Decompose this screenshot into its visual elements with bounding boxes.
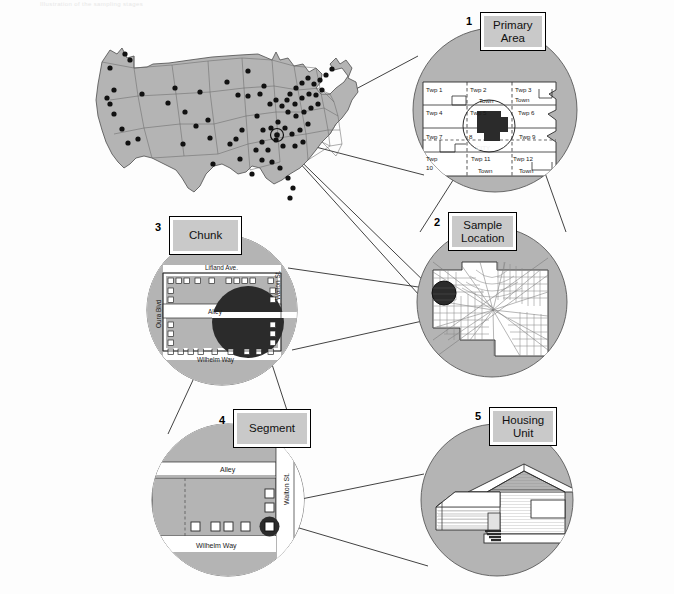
panel-chunk: Lifland Ave. Alley Wilhelm Way Oura Blvd… [147,235,298,385]
selected-housing-unit [260,517,280,537]
street-label-oura: Oura Blvd [155,299,162,328]
svg-text:Twp 3: Twp 3 [515,86,532,93]
street-label-walton-4: Walton St. [283,473,290,505]
svg-text:Twp 12: Twp 12 [513,155,534,162]
svg-text:Twp 11: Twp 11 [471,155,491,162]
callout-number-5: 5 [475,411,481,422]
street-label-alley-4: Alley [220,466,236,474]
svg-text:Town: Town [478,167,493,174]
callout-label-4: Segment [236,412,308,445]
svg-text:Twp 2: Twp 2 [470,86,487,93]
street-label-wilhelm-4: Wilhelm Way [196,542,237,550]
callout-number-2: 2 [434,217,440,228]
callout-label-1: Primary Area [483,15,543,48]
svg-text:Town: Town [479,97,494,104]
callout-label-5: Housing Unit [492,410,554,443]
svg-text:Town: Town [519,167,534,174]
street-label-lifland: Lifland Ave. [205,264,238,271]
svg-text:Twp 1: Twp 1 [426,86,443,93]
svg-text:Twp 4: Twp 4 [426,109,443,116]
svg-text:Twp 5: Twp 5 [470,109,487,116]
callout-number-3: 3 [155,222,161,233]
diagram-artwork: Twp 1 Twp 2 Twp 3 Town Town Twp 4 Twp 5 … [0,0,674,594]
callout-number-4: 4 [219,415,225,426]
street-label-wilhelm: Wilhelm Way [197,356,235,364]
svg-text:CITY: CITY [476,144,490,151]
panel-primary-area: Twp 1 Twp 2 Twp 3 Town Town Twp 4 Twp 5 … [413,28,577,192]
street-label-alley: Alley [208,308,223,316]
panel-housing-unit [421,424,580,576]
street-label-walton: Walton St. [274,271,281,300]
callout-label-2: Sample Location [451,215,514,248]
callout-number-1: 1 [466,16,472,27]
svg-text:10: 10 [426,164,433,171]
figure-canvas: Illustration of the sampling stages [0,0,674,594]
svg-text:Twp: Twp [426,155,438,162]
svg-text:Twp 6: Twp 6 [518,109,535,116]
svg-text:Twp 9: Twp 9 [519,133,536,140]
svg-text:Town: Town [515,96,530,103]
callout-label-3: Chunk [172,219,239,252]
svg-text:Twp 7: Twp 7 [426,133,443,140]
svg-text:8: 8 [469,133,473,140]
us-map [96,48,358,201]
